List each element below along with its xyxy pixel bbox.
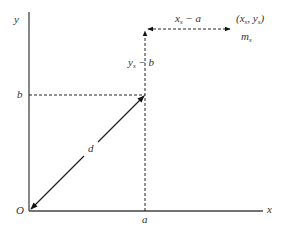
target-point-label: (xs, ys)	[236, 12, 264, 26]
y-axis-label: y	[13, 13, 19, 25]
origin-label: O	[16, 204, 24, 216]
d-label: d	[88, 142, 94, 154]
a-label: a	[142, 213, 148, 225]
coordinate-diagram: y x O b a d ys − b xs − a (xs, ys) ms	[0, 0, 288, 236]
ys-minus-b-label: ys − b	[127, 56, 155, 70]
xs-minus-a-label: xs − a	[174, 12, 202, 26]
target-mass-label: ms	[241, 30, 252, 44]
d-vector-lower	[31, 156, 84, 209]
b-label: b	[17, 88, 23, 100]
x-axis-label: x	[266, 203, 272, 215]
d-vector-upper	[98, 96, 144, 142]
